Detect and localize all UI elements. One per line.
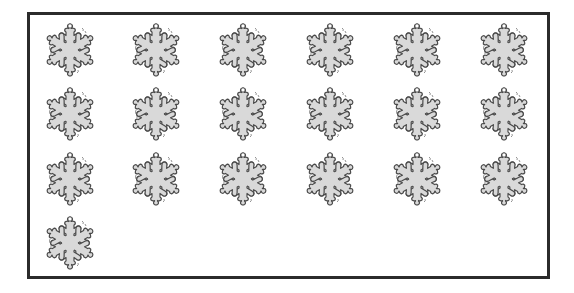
snowflake-icon: [127, 150, 185, 208]
snowflake-icon: [475, 21, 533, 79]
snowflake-icon: [214, 21, 272, 79]
snowflake-icon: [127, 85, 185, 143]
snowflake-icon: [388, 85, 446, 143]
snowflake-icon: [41, 214, 99, 272]
snowflake-icon: [301, 21, 359, 79]
worksheet-frame: [27, 12, 550, 279]
snowflake-icon: [214, 85, 272, 143]
snowflake-icon: [41, 85, 99, 143]
snowflake-icon: [475, 85, 533, 143]
snowflake-icon: [301, 85, 359, 143]
snowflake-icon: [475, 150, 533, 208]
snowflake-icon: [301, 150, 359, 208]
snowflake-icon: [214, 150, 272, 208]
snowflake-icon: [388, 21, 446, 79]
snowflake-icon: [127, 21, 185, 79]
snowflake-icon: [388, 150, 446, 208]
snowflake-icon: [41, 150, 99, 208]
snowflake-icon: [41, 21, 99, 79]
